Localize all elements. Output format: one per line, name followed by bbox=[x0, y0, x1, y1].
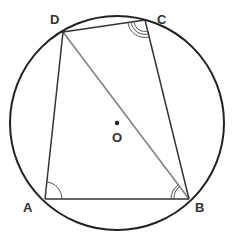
center-point-o bbox=[115, 121, 119, 125]
label-b: B bbox=[195, 200, 204, 215]
angle-mark-a bbox=[47, 182, 62, 199]
label-o: O bbox=[112, 130, 122, 145]
angle-mark-b bbox=[171, 185, 179, 199]
side-cd bbox=[63, 20, 145, 32]
side-da bbox=[45, 32, 63, 199]
label-c: C bbox=[157, 12, 167, 27]
diagonal-db bbox=[63, 32, 189, 199]
side-bc bbox=[145, 20, 189, 199]
label-a: A bbox=[23, 200, 33, 215]
cyclic-quadrilateral-diagram: D C O A B bbox=[0, 0, 233, 240]
label-d: D bbox=[50, 12, 59, 27]
quadrilateral-abcd bbox=[45, 20, 189, 199]
